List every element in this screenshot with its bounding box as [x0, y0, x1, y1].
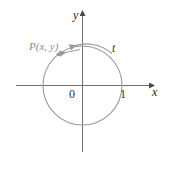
unit-tick-label: 1 — [120, 88, 126, 100]
y-axis-label: y — [73, 9, 78, 21]
figure-canvas — [0, 0, 171, 174]
point-p-label: P(x, y) — [29, 41, 58, 52]
arc-direction-indicator — [72, 44, 112, 54]
origin-label: 0 — [69, 88, 75, 100]
arc-parameter-label: t — [112, 42, 115, 54]
x-axis-label: x — [152, 86, 157, 98]
unit-circle-figure: y x 0 1 t P(x, y) — [0, 0, 171, 174]
point-p-marker — [57, 52, 61, 56]
